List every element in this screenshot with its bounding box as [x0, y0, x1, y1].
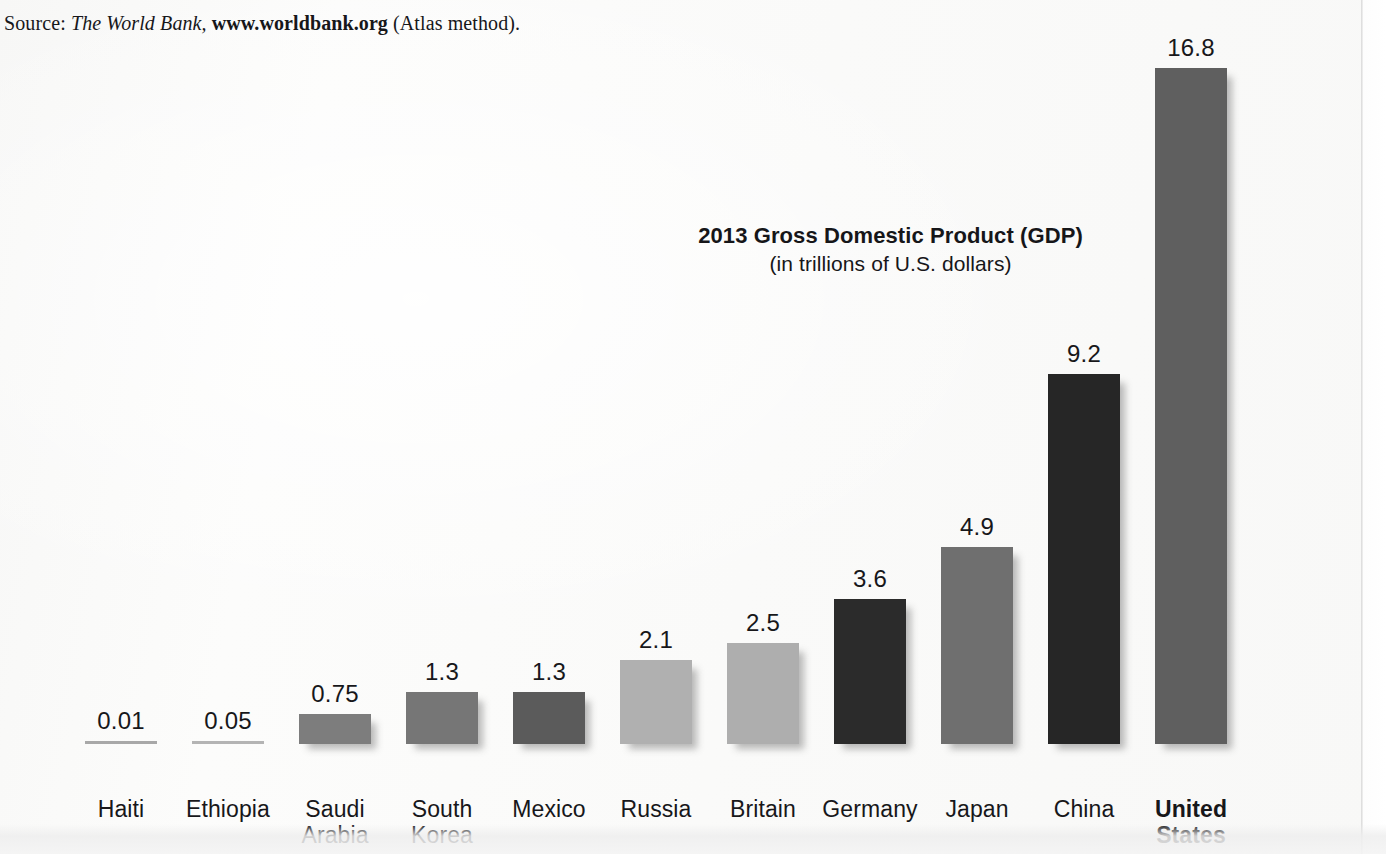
bar[interactable]: [406, 692, 478, 744]
bar-group: 16.8UnitedStates: [1120, 44, 1262, 744]
bar-category-label-line1: Britain: [730, 796, 796, 822]
bar[interactable]: [1048, 374, 1120, 744]
bar[interactable]: [85, 741, 157, 744]
scanned-page: Source: The World Bank, www.worldbank.or…: [0, 0, 1386, 854]
bar-category-label-line1: Germany: [822, 796, 917, 822]
page-bottom-shading: [0, 824, 1386, 854]
bar-column: 16.8: [1120, 44, 1262, 744]
bar[interactable]: [192, 741, 264, 744]
bar-category-label-line1: Russia: [621, 796, 692, 822]
bar[interactable]: [513, 692, 585, 744]
bar[interactable]: [941, 547, 1013, 744]
page-edge-margin: [1363, 0, 1386, 854]
bar-category-label-line1: Ethiopia: [186, 796, 270, 822]
bar[interactable]: [1155, 68, 1227, 744]
bar-category-label-line1: China: [1054, 796, 1115, 822]
bar-category-label-line1: Saudi: [305, 796, 364, 822]
bar-category-label-line1: United: [1155, 796, 1227, 822]
bar-value-label: 16.8: [1120, 34, 1262, 62]
bar[interactable]: [727, 643, 799, 744]
bar-category-label-line1: Japan: [945, 796, 1008, 822]
bar-category-label-line1: South: [412, 796, 473, 822]
bar[interactable]: [299, 714, 371, 744]
bar-chart-plot: 0.01Haiti0.05Ethiopia0.75SaudiArabia1.3S…: [0, 0, 1386, 854]
bar-category-label-line1: Haiti: [98, 796, 145, 822]
bar[interactable]: [834, 599, 906, 744]
bar[interactable]: [620, 660, 692, 745]
bar-category-label-line1: Mexico: [512, 796, 585, 822]
